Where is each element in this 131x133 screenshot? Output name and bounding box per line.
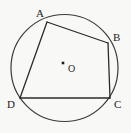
vertex-label-d: D (7, 99, 15, 110)
circumscribed-circle (11, 15, 118, 122)
edge-a-b (47, 22, 108, 43)
vertex-label-b: B (113, 32, 121, 43)
edge-b-c (108, 43, 110, 98)
vertex-label-a: A (36, 8, 44, 19)
circle-center-dot (62, 62, 65, 65)
center-label-o: O (68, 64, 75, 74)
geometry-figure: A B C D O (0, 0, 131, 133)
geometry-canvas (0, 0, 131, 133)
vertex-label-c: C (114, 99, 122, 110)
